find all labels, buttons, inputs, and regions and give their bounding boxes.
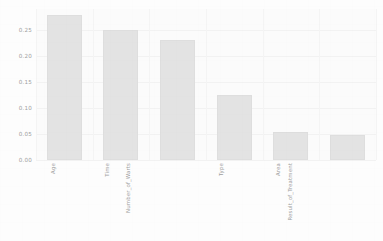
bar-chart-figure: 0.000.050.100.150.200.25 AgeTimeNumber_o… bbox=[0, 0, 383, 241]
gridline-vertical bbox=[206, 9, 207, 160]
gridline-vertical bbox=[149, 9, 150, 160]
x-axis-tick-label: Age bbox=[50, 163, 56, 174]
x-axis-tick-label: Type bbox=[218, 163, 224, 176]
gridline-vertical bbox=[319, 9, 320, 160]
x-axis-tick-label: Number_of_Warts bbox=[125, 163, 131, 213]
bar[interactable] bbox=[47, 15, 82, 160]
x-axis-tick-label: Time bbox=[104, 163, 110, 177]
x-axis-tick-label: Result_of_Treatment bbox=[287, 163, 293, 221]
gridline-vertical bbox=[93, 9, 94, 160]
y-axis-tick-label: 0.20 bbox=[19, 53, 32, 59]
y-axis-tick-label: 0.05 bbox=[19, 131, 32, 137]
gridline-vertical bbox=[263, 9, 264, 160]
y-axis-tick-label: 0.15 bbox=[19, 79, 32, 85]
bar[interactable] bbox=[160, 40, 195, 160]
plot-area: 0.000.050.100.150.200.25 bbox=[36, 9, 376, 160]
y-axis-tick-label: 0.10 bbox=[19, 105, 32, 111]
y-axis-tick-label: 0.25 bbox=[19, 27, 32, 33]
gridline bbox=[36, 160, 376, 161]
gridline-vertical bbox=[36, 9, 37, 160]
gridline-vertical bbox=[376, 9, 377, 160]
y-axis-tick-label: 0.00 bbox=[19, 157, 32, 163]
bar[interactable] bbox=[330, 135, 365, 160]
x-axis-tick-label: Area bbox=[275, 163, 281, 176]
